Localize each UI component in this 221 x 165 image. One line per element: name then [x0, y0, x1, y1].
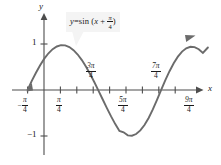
- x-axis-label: x: [208, 84, 212, 93]
- x-tick-numerator: 3π: [87, 61, 95, 70]
- equation-plus: +: [100, 16, 105, 26]
- x-tick-fraction: 5π 4: [118, 96, 128, 114]
- x-tick-fraction: π 4: [56, 96, 62, 114]
- x-tick-denominator: 4: [184, 106, 194, 115]
- x-tick-fraction: π 4: [22, 96, 28, 114]
- x-tick-label-7pi-over-4: 7π 4: [151, 62, 161, 80]
- sine-curve: [27, 35, 208, 136]
- callout-leader: [72, 31, 84, 46]
- x-tick-numerator: 9π: [185, 95, 193, 104]
- x-tick-numerator: π: [23, 95, 27, 104]
- x-tick-fraction: 7π 4: [151, 62, 161, 80]
- y-tick-label-negative-one: −1: [27, 130, 37, 139]
- x-tick-numerator: 5π: [119, 95, 127, 104]
- sine-graph-figure: y=sin (x + π 4 ) x y 1 −1 − π 4 π 4 3π 4…: [0, 0, 221, 165]
- y-axis-label: y: [39, 2, 43, 11]
- y-axis: [41, 13, 48, 155]
- y-tick-label-positive-one: 1: [32, 38, 37, 47]
- x-tick-denominator: 4: [22, 106, 28, 115]
- x-tick-numerator: 7π: [152, 61, 160, 70]
- x-tick-denominator: 4: [86, 72, 96, 81]
- x-tick-label-pi-over-4: π 4: [56, 96, 62, 114]
- x-tick-label-3pi-over-4: 3π 4: [86, 62, 96, 80]
- x-tick-denominator: 4: [56, 106, 62, 115]
- x-tick-denominator: 4: [151, 72, 161, 81]
- x-tick-label-neg-pi-over-4: − π 4: [17, 96, 28, 114]
- x-tick-fraction: 9π 4: [184, 96, 194, 114]
- equation-function: sin: [79, 16, 89, 26]
- x-tick-numerator: π: [57, 95, 61, 104]
- x-tick-denominator: 4: [118, 106, 128, 115]
- equation-phase-numerator: π: [108, 14, 111, 21]
- x-tick-label-9pi-over-4: 9π 4: [184, 96, 194, 114]
- equation-close-paren: ): [113, 16, 116, 26]
- x-tick-label-5pi-over-4: 5π 4: [118, 96, 128, 114]
- equation-label: y=sin (x + π 4 ): [66, 12, 120, 32]
- equation-variable: x: [94, 16, 98, 26]
- x-tick-fraction: 3π 4: [86, 62, 96, 80]
